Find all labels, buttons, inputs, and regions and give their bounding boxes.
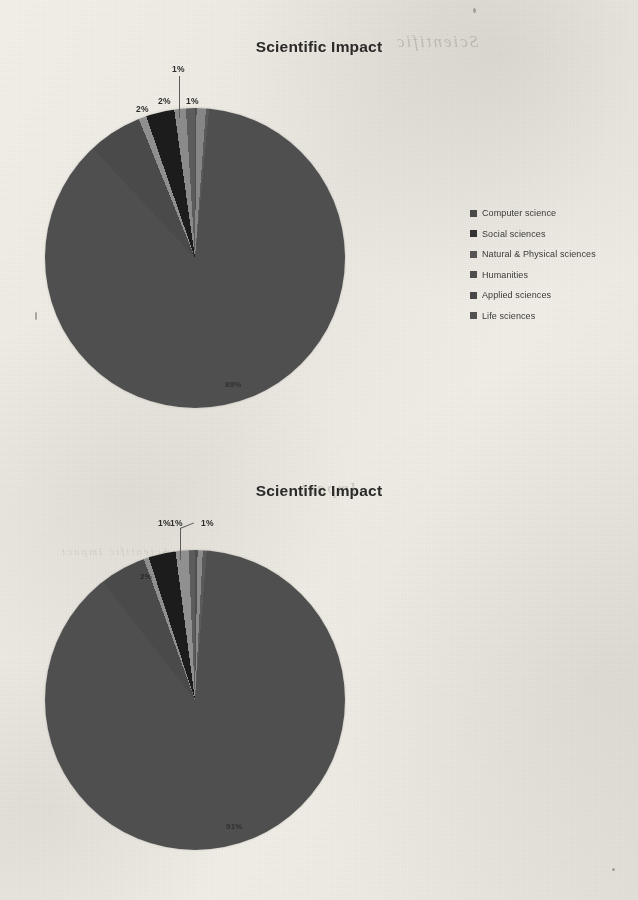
pie-value-label-b-bottom: 1% bbox=[170, 518, 183, 528]
pie-slices-top: 89% bbox=[45, 108, 345, 408]
legend-item-social-sciences[interactable]: Social sciences bbox=[470, 229, 596, 239]
legend-label: Social sciences bbox=[482, 229, 546, 239]
pie-slices-bottom: 91% 2% bbox=[45, 550, 345, 850]
chart-title-bottom: Scientific Impact bbox=[0, 482, 638, 500]
pie-value-label-a-top: 2% bbox=[136, 104, 149, 114]
label-leader-line-bottom bbox=[180, 528, 181, 560]
label-leader-line-top bbox=[179, 76, 180, 118]
legend-swatch-icon bbox=[470, 251, 477, 258]
legend-label: Natural & Physical sciences bbox=[482, 249, 596, 259]
legend-label: Applied sciences bbox=[482, 290, 551, 300]
pie-value-label-c-top: 1% bbox=[186, 96, 199, 106]
legend-item-natural-physical-sciences[interactable]: Natural & Physical sciences bbox=[470, 249, 596, 259]
chart-title-top: Scientific Impact bbox=[0, 38, 638, 56]
pie-value-label-leader-bottom: 1% bbox=[201, 518, 214, 528]
pie-value-label-b-top: 2% bbox=[158, 96, 171, 106]
legend-label: Life sciences bbox=[482, 311, 535, 321]
legend-item-life-sciences[interactable]: Life sciences bbox=[470, 311, 596, 321]
pie-graphic-bottom: 91% 2% bbox=[45, 550, 345, 850]
legend-item-humanities[interactable]: Humanities bbox=[470, 270, 596, 280]
pie-value-label-inside-bottom-chart: 2% bbox=[140, 572, 152, 581]
legend-label: Humanities bbox=[482, 270, 528, 280]
legend-item-computer-science[interactable]: Computer science bbox=[470, 208, 596, 218]
legend-swatch-icon bbox=[470, 312, 477, 319]
pie-chart-bottom: Scientific Impact 91% 2% 1% 1% 1% comput… bbox=[0, 440, 638, 870]
legend-top: Computer science Social sciences Natural… bbox=[470, 208, 596, 331]
legend-swatch-icon bbox=[470, 230, 477, 237]
legend-swatch-icon bbox=[470, 271, 477, 278]
pie-value-label-bottom-bottom-chart: 91% bbox=[226, 822, 243, 831]
pie-graphic-top: 89% bbox=[45, 108, 345, 408]
pie-value-label-bottom-top-chart: 89% bbox=[225, 380, 242, 389]
legend-item-applied-sciences[interactable]: Applied sciences bbox=[470, 290, 596, 300]
legend-swatch-icon bbox=[470, 210, 477, 217]
pie-chart-top: Scientific Impact 89% 1% 2% 2% 1% Comput… bbox=[0, 0, 638, 430]
legend-swatch-icon bbox=[470, 292, 477, 299]
pie-value-label-a-bottom: 1% bbox=[158, 518, 171, 528]
legend-label: Computer science bbox=[482, 208, 556, 218]
pie-value-label-leader-top: 1% bbox=[172, 64, 185, 74]
